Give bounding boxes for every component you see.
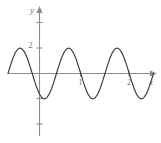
sinusoid-plot: 2 1 2 y x <box>0 0 161 143</box>
y-axis-label: y <box>29 5 34 15</box>
y-axis-arrowhead <box>36 6 42 13</box>
x-tick-label-1: 1 <box>79 78 83 87</box>
x-axis <box>8 70 157 76</box>
y-tick-label-2: 2 <box>29 41 33 50</box>
y-axis <box>36 6 42 136</box>
x-tick-label-2: 2 <box>127 78 131 87</box>
graph-figure: 2 1 2 y x <box>0 0 161 143</box>
